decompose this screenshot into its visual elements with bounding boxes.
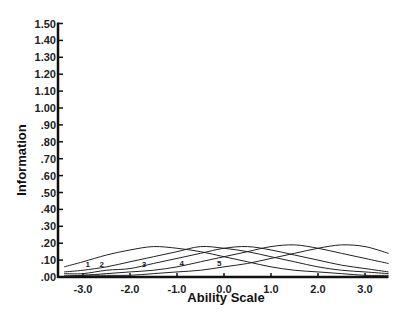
y-tick-label: .10 (41, 254, 56, 266)
y-tick-label: .30 (41, 220, 56, 232)
item-curve-1 (64, 247, 388, 276)
curve-label-3: 3 (142, 260, 147, 269)
y-tick-label: .00 (41, 271, 56, 283)
x-tick-label: -3.0 (74, 283, 93, 295)
curve-label-5: 5 (217, 259, 222, 268)
x-tick-label: 2.0 (310, 283, 325, 295)
curve-label-1: 1 (85, 260, 90, 269)
y-tick-label: 1.10 (35, 85, 56, 97)
x-tick-label: 1.0 (263, 283, 278, 295)
y-axis-title: Information (14, 124, 29, 196)
information-curves (64, 245, 388, 277)
x-axis-title: Ability Scale (187, 290, 264, 305)
x-tick-label: -2.0 (121, 283, 140, 295)
y-tick-label: 1.40 (35, 34, 56, 46)
y-tick-label: .60 (41, 170, 56, 182)
curve-label-4: 4 (179, 259, 184, 268)
y-tick-label: 1.50 (35, 18, 56, 30)
curve-label-2: 2 (100, 260, 105, 269)
y-tick-label: .90 (41, 119, 56, 131)
y-axis: .00.10.20.30.40.50.60.70.80.901.001.101.… (35, 18, 63, 284)
x-tick-label: -1.0 (168, 283, 187, 295)
x-tick-label: 3.0 (357, 283, 372, 295)
item-curve-4 (64, 245, 388, 276)
information-chart: .00.10.20.30.40.50.60.70.80.901.001.101.… (0, 0, 401, 318)
y-tick-label: .50 (41, 187, 56, 199)
y-tick-label: 1.00 (35, 102, 56, 114)
y-tick-label: .70 (41, 153, 56, 165)
item-curve-5 (64, 245, 388, 277)
y-tick-label: 1.20 (35, 68, 56, 80)
y-tick-label: 1.30 (35, 51, 56, 63)
y-tick-label: .80 (41, 136, 56, 148)
y-tick-label: .40 (41, 203, 56, 215)
y-tick-label: .20 (41, 237, 56, 249)
curve-labels: 12345 (85, 259, 222, 269)
